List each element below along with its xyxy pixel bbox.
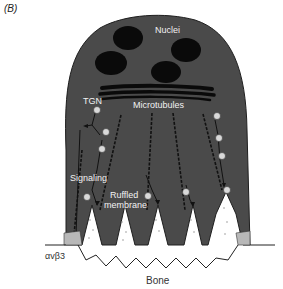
ruffled-label-line1: Ruffled [110, 191, 138, 200]
vesicle [84, 194, 91, 201]
osteoclast-cell-body [66, 15, 250, 245]
integrin-patch-right [236, 231, 250, 245]
vesicle [224, 187, 231, 194]
nuclei-label: Nuclei [155, 26, 180, 35]
nucleus [171, 38, 201, 62]
microtubules-label: Microtubules [133, 101, 184, 110]
vesicle [219, 153, 226, 160]
integrin-label: αvβ3 [45, 252, 65, 261]
vesicle [216, 135, 223, 142]
vesicle [145, 193, 152, 200]
bone-resorption-pit [78, 245, 238, 268]
vesicle [183, 189, 190, 196]
bone-label: Bone [146, 276, 169, 285]
signaling-label: Signaling [70, 174, 107, 183]
vesicle [99, 146, 106, 153]
nucleus [113, 26, 143, 50]
vesicle [214, 113, 221, 120]
nucleus [95, 51, 127, 75]
osteoclast-diagram [0, 0, 283, 289]
vesicle [103, 129, 110, 136]
ruffled-label-line2: membrane [104, 201, 147, 210]
tgn-label: TGN [83, 97, 102, 106]
integrin-patch-left [64, 231, 82, 245]
vesicle [94, 107, 101, 114]
nucleus [151, 61, 181, 83]
